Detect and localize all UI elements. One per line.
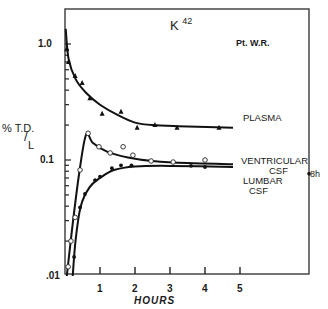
y-tick-label-0.01: .01 bbox=[46, 270, 60, 281]
ventricular-csf-label: VENTRICULAR CSF bbox=[241, 156, 308, 176]
chart-title: K 42 bbox=[170, 16, 192, 33]
eight-hour-annotation: 8h bbox=[310, 169, 320, 179]
plot-frame bbox=[65, 9, 309, 274]
y-axis-label-denominator: L bbox=[28, 139, 34, 151]
series-curves bbox=[66, 29, 233, 276]
x-axis-label: HOURS bbox=[134, 295, 175, 306]
plasma-label: PLASMA bbox=[243, 112, 282, 123]
title-superscript: 42 bbox=[182, 16, 192, 26]
lumbar-csf-label: LUMBAR CSF bbox=[243, 176, 283, 196]
x-tick-label-2: 2 bbox=[132, 283, 138, 294]
chart-subtitle: Pt. W.R. bbox=[236, 38, 270, 48]
x-tick-label-1: 1 bbox=[97, 283, 103, 294]
lumbar-label-line2: CSF bbox=[243, 186, 283, 196]
y-tick-label-0.1: 0.1 bbox=[40, 154, 54, 165]
x-tick-label-4: 4 bbox=[202, 283, 208, 294]
x-axis-ticks bbox=[100, 267, 240, 274]
y-axis-ticks bbox=[65, 44, 71, 241]
y-tick-label-1: 1.0 bbox=[38, 38, 52, 49]
series-markers bbox=[64, 46, 221, 269]
title-base: K bbox=[170, 18, 179, 33]
x-tick-label-3: 3 bbox=[167, 283, 173, 294]
x-tick-label-5: 5 bbox=[237, 283, 243, 294]
y-axis-label: % T.D. bbox=[2, 122, 34, 134]
